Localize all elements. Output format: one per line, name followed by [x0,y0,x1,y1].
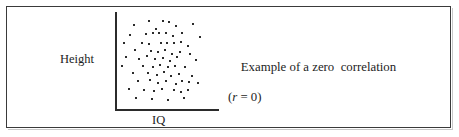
r-value-text: = 0) [237,90,261,104]
y-axis-line [115,12,117,111]
annotation-line-2: (r = 0) [228,90,396,105]
x-axis-label: IQ [152,113,165,128]
y-axis-label: Height [60,52,94,67]
x-axis-line [115,109,219,111]
chart-annotation: Example of a zero correlation (r = 0) [228,45,396,135]
figure-container: Height IQ Example of a zero correlation … [0,0,459,137]
annotation-line-1: Example of a zero correlation [241,60,396,74]
